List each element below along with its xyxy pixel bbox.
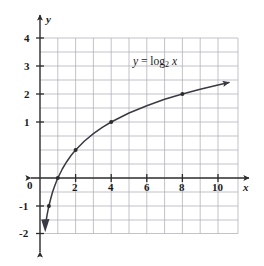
curve-lower-arrowhead [41, 219, 49, 232]
y-tick-label-1: 1 [24, 117, 30, 128]
x-tick-label-2: 2 [72, 182, 78, 193]
log-function-graph: 4 3 2 1 0 -1 -2 2 4 6 8 10 y x y = log2 … [0, 0, 264, 266]
data-point [74, 148, 78, 152]
x-tick-label-6: 6 [144, 182, 150, 193]
log-curve [46, 83, 230, 226]
x-tick-label-8: 8 [179, 182, 185, 193]
x-axis-label: x [243, 182, 249, 193]
data-point [180, 92, 184, 96]
data-point [56, 176, 60, 180]
equation-function: log [150, 55, 165, 67]
y-tick-label-neg2: -2 [19, 228, 28, 239]
y-tick-label-2: 2 [24, 89, 30, 100]
y-tick-label-0: 0 [27, 180, 33, 191]
curve-equation-label: y = log2 x [133, 56, 177, 69]
x-tick-label-4: 4 [108, 182, 114, 193]
y-tick-label-4: 4 [24, 33, 30, 44]
y-axis-label: y [46, 14, 51, 25]
y-tick-label-neg1: -1 [19, 201, 28, 212]
x-tick-label-10: 10 [212, 182, 223, 193]
equation-variable: x [172, 55, 177, 67]
data-point [109, 120, 113, 124]
plot-canvas [0, 0, 264, 266]
y-tick-label-3: 3 [24, 61, 30, 72]
data-point [47, 204, 51, 208]
